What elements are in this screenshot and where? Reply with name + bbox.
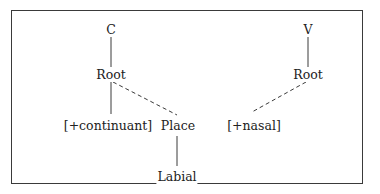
node-feature-continuant: [+continuant] [63, 119, 153, 133]
edge-root-nasal-dashed [252, 82, 306, 112]
node-segment-c: C [105, 23, 117, 37]
node-labial: Labial [156, 170, 197, 184]
node-place: Place [160, 119, 196, 133]
node-segment-v: V [302, 23, 313, 37]
tree-edges [0, 0, 380, 194]
node-root-right: Root [292, 68, 324, 82]
node-root-left: Root [95, 68, 127, 82]
node-feature-nasal: [+nasal] [226, 119, 282, 133]
edge-root-place-dashed [113, 82, 177, 115]
